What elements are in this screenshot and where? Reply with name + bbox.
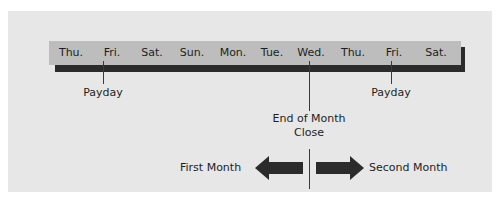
second-month-label: Second Month [369,161,447,175]
payday-1-marker-line [103,61,104,84]
payday-1-label: Payday [83,86,123,100]
day-label: Thu. [59,41,83,65]
payday-2-marker-line [391,61,392,84]
left-arrow-icon [255,156,303,180]
month-divider-line [309,149,310,189]
first-month-label: First Month [180,161,241,175]
day-label: Sat. [425,41,447,65]
day-label: Tue. [261,41,283,65]
day-label: Sat. [141,41,163,65]
payday-2-label: Payday [371,86,411,100]
day-label: Sun. [180,41,204,65]
day-label: Fri. [104,41,121,65]
month-close-marker-line [309,61,310,111]
day-label: Thu. [341,41,365,65]
timeline-bar: Thu. Fri. Sat. Sun. Mon. Tue. Wed. Thu. … [49,41,461,65]
day-label: Fri. [386,41,403,65]
day-label: Mon. [220,41,247,65]
diagram-panel: Thu. Fri. Sat. Sun. Mon. Tue. Wed. Thu. … [8,11,492,192]
day-label: Wed. [297,41,324,65]
month-close-label: End of Month Close [273,112,346,140]
month-close-label-line2: Close [273,126,346,140]
month-close-label-line1: End of Month [273,112,346,126]
right-arrow-icon [316,156,364,180]
